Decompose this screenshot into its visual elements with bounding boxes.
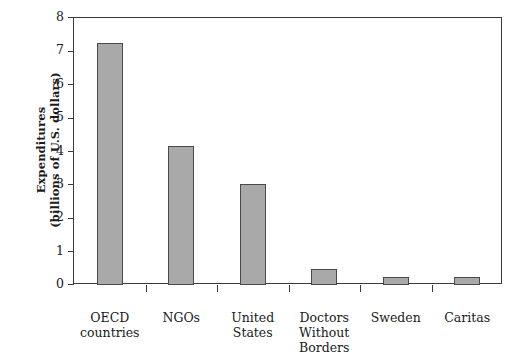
- bar: [454, 277, 480, 285]
- y-axis-tick: [68, 284, 74, 285]
- y-axis-tick: [68, 184, 74, 185]
- y-axis-tick: [68, 84, 74, 85]
- y-axis-tick-label: 1: [44, 245, 64, 258]
- bar: [97, 43, 123, 285]
- y-axis-tick-label: 0: [44, 278, 64, 291]
- x-axis-tick: [289, 285, 290, 292]
- y-axis-tick-label: 8: [44, 11, 64, 24]
- x-axis-category-label: United States: [217, 310, 289, 340]
- y-axis-tick: [68, 51, 74, 52]
- x-axis-category-label: Caritas: [432, 310, 504, 325]
- plot-area: 012345678OECD countriesNGOsUnited States…: [73, 17, 502, 284]
- x-axis-category-label: NGOs: [146, 310, 218, 325]
- bar: [311, 269, 337, 285]
- x-axis-tick: [432, 285, 433, 292]
- y-axis-tick: [68, 118, 74, 119]
- y-axis-tick: [68, 151, 74, 152]
- x-axis-category-label: OECD countries: [74, 310, 146, 340]
- y-axis-tick-label: 3: [44, 178, 64, 191]
- y-axis-tick-label: 4: [44, 145, 64, 158]
- y-axis-tick: [68, 218, 74, 219]
- bar: [240, 184, 266, 285]
- plot-inner: [74, 18, 501, 283]
- bar: [383, 277, 409, 285]
- y-axis-tick: [68, 251, 74, 252]
- bar: [168, 146, 194, 285]
- x-axis-tick: [217, 285, 218, 292]
- y-axis-tick-label: 6: [44, 78, 64, 91]
- y-axis-tick: [68, 17, 74, 18]
- x-axis-category-label: Doctors Without Borders: [289, 310, 361, 355]
- y-axis-tick-label: 5: [44, 111, 64, 124]
- x-axis-category-label: Sweden: [360, 310, 432, 325]
- y-axis-tick-label: 7: [44, 44, 64, 57]
- x-axis-tick: [360, 285, 361, 292]
- y-axis-tick-label: 2: [44, 211, 64, 224]
- x-axis-tick: [146, 285, 147, 292]
